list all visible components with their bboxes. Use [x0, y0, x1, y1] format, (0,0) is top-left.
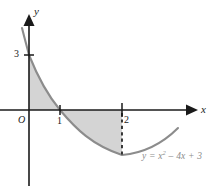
- y-axis-arrowhead: [24, 14, 35, 26]
- shaded-region-below-axis: [60, 110, 122, 155]
- x-tick-label-1: 1: [57, 115, 62, 126]
- x-axis-label: x: [201, 103, 206, 115]
- quadratic-graph-figure: y x 3 1 2 O y = x2 – 4x + 3: [0, 0, 212, 186]
- equation-base: y = x: [142, 151, 163, 161]
- y-axis-label: y: [34, 5, 39, 17]
- x-axis-arrowhead: [186, 105, 198, 116]
- shaded-region-above-axis: [29, 55, 60, 110]
- equation-rest: – 4x + 3: [166, 151, 202, 161]
- y-tick-label-3: 3: [14, 48, 19, 59]
- x-tick-label-2: 2: [124, 114, 129, 125]
- origin-label: O: [18, 114, 25, 125]
- curve-equation-label: y = x2 – 4x + 3: [142, 149, 202, 161]
